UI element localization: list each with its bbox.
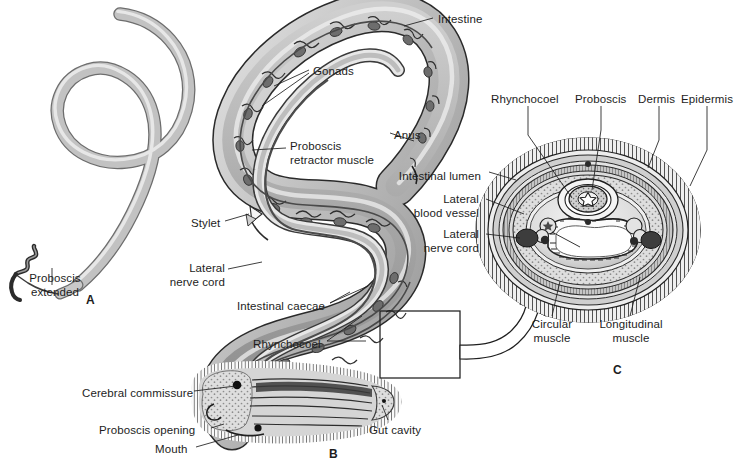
label-stylet: Stylet xyxy=(191,217,220,231)
label-dermis: Dermis xyxy=(638,93,675,107)
label-circular-muscle: Circular muscle xyxy=(515,318,589,345)
panel-letter-a: A xyxy=(86,293,95,307)
label-proboscis-opening: Proboscis opening xyxy=(99,424,195,438)
label-mouth: Mouth xyxy=(155,443,187,457)
c-lateral-nerve-cord-right xyxy=(641,232,661,249)
label-lateral-nerve-cord-c: Lateral nerve cord xyxy=(379,228,479,255)
label-epidermis: Epidermis xyxy=(681,93,733,107)
label-lateral-nerve-cord-b: Lateral nerve cord xyxy=(155,262,225,289)
label-intestinal-caecae: Intestinal caecae xyxy=(237,300,325,314)
label-rhynchocoel-c: Rhynchocoel xyxy=(491,93,559,107)
panel-a-whole-worm xyxy=(11,11,188,300)
label-proboscis-c: Proboscis xyxy=(575,93,626,107)
b-cerebral-commissure xyxy=(233,381,242,390)
b-ventral-ganglion xyxy=(254,424,261,431)
c-dorsal-vessel xyxy=(585,219,591,225)
label-lateral-blood-vessel: Lateral blood vessel xyxy=(379,193,479,220)
panel-letter-c: C xyxy=(613,363,622,377)
panel-c-cross-section xyxy=(476,106,707,322)
label-longitudinal-muscle: Longitudinal muscle xyxy=(586,318,676,345)
panel-letter-b: B xyxy=(329,447,338,461)
label-proboscis-retractor-muscle: Proboscis retractor muscle xyxy=(290,140,374,167)
c-lateral-blood-vessel-left xyxy=(541,236,549,244)
b-head-parenchyma xyxy=(202,371,252,431)
label-anus: Anus xyxy=(394,129,421,143)
c-lateral-blood-vessel-right xyxy=(630,237,638,245)
c-intestinal-lumen xyxy=(556,226,632,257)
c-dorsal-marker xyxy=(585,161,591,167)
label-cerebral-commissure: Cerebral commissure xyxy=(82,387,193,401)
label-intestine: Intestine xyxy=(438,13,482,27)
figure-canvas: Proboscis extended Intestine Gonads Prob… xyxy=(0,0,741,464)
label-gut-cavity: Gut cavity xyxy=(369,424,421,438)
label-gonads: Gonads xyxy=(313,65,354,79)
b-gut-dot xyxy=(382,399,386,403)
label-intestinal-lumen: Intestinal lumen xyxy=(379,170,481,184)
b-head xyxy=(195,364,398,440)
label-proboscis-extended: Proboscis extended xyxy=(13,272,97,299)
label-rhynchocoel-b: Rhynchocoel xyxy=(253,338,321,352)
b-inset-box xyxy=(380,311,460,378)
